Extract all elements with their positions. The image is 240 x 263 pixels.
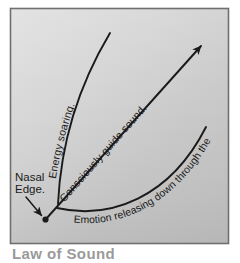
nasal-edge-origin-dot <box>42 216 48 222</box>
nasal-edge-label-line1: Nasal <box>15 171 44 183</box>
figure-root: Nasal Edge. Energy soaring. Consciously … <box>0 0 240 263</box>
vocal-energy-flow-diagram: Nasal Edge. Energy soaring. Consciously … <box>0 0 240 263</box>
caption-strip: Law of Sound <box>0 248 240 263</box>
nasal-edge-label-line2: Edge. <box>15 183 45 195</box>
figure-caption: Law of Sound <box>12 248 115 262</box>
nasal-edge-label: Nasal Edge. <box>15 171 45 195</box>
